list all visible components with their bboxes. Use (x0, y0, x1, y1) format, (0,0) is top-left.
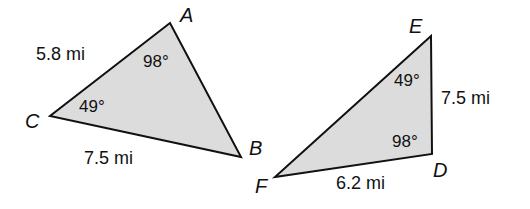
vertex-label-b: B (249, 137, 262, 159)
vertex-label-e: E (409, 15, 423, 37)
triangle-def: E D F 7.5 mi 6.2 mi 49° 98° (255, 15, 490, 197)
triangle-def-shape (275, 36, 432, 177)
side-label-fd: 6.2 mi (336, 173, 385, 193)
side-label-ed: 7.5 mi (441, 88, 490, 108)
vertex-label-d: D (433, 159, 447, 181)
vertex-label-f: F (255, 175, 269, 197)
triangle-abc: A B C 5.8 mi 7.5 mi 98° 49° (25, 4, 262, 168)
side-label-cb: 7.5 mi (84, 148, 133, 168)
angle-label-c: 49° (79, 97, 105, 116)
angle-label-a: 98° (143, 52, 169, 71)
triangles-diagram: A B C 5.8 mi 7.5 mi 98° 49° E D F 7.5 mi… (0, 0, 530, 209)
vertex-label-c: C (25, 110, 40, 132)
vertex-label-a: A (179, 4, 193, 26)
angle-label-e: 49° (394, 71, 420, 90)
angle-label-d: 98° (392, 132, 418, 151)
side-label-ca: 5.8 mi (36, 44, 85, 64)
